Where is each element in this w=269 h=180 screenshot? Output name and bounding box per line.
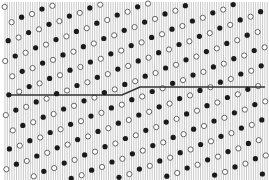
- filled-dot: [178, 150, 183, 155]
- hollow-dot: [105, 17, 110, 22]
- hollow-dot: [248, 14, 253, 19]
- hollow-dot: [24, 104, 29, 109]
- filled-dot: [62, 161, 67, 166]
- filled-dot: [225, 149, 230, 154]
- filled-dot: [60, 52, 65, 57]
- filled-dot: [171, 135, 176, 140]
- hollow-dot: [201, 123, 206, 128]
- filled-dot: [61, 106, 66, 111]
- filled-dot: [143, 128, 148, 133]
- hollow-dot: [236, 146, 241, 151]
- hollow-dot: [187, 39, 192, 44]
- hollow-dot: [214, 46, 219, 51]
- hollow-dot: [113, 141, 118, 146]
- hollow-dot: [23, 50, 28, 55]
- filled-dot: [88, 59, 93, 64]
- hollow-dot: [154, 125, 159, 130]
- filled-dot: [34, 153, 39, 158]
- filled-dot: [46, 22, 51, 27]
- filled-dot: [13, 108, 18, 113]
- hollow-dot: [222, 115, 227, 120]
- hollow-dot: [84, 26, 89, 31]
- hollow-dot: [50, 57, 55, 62]
- filled-dot: [205, 157, 210, 162]
- hollow-dot: [235, 38, 240, 43]
- hollow-dot: [51, 111, 56, 116]
- hollow-dot: [2, 4, 7, 9]
- filled-dot: [136, 112, 141, 117]
- hollow-dot: [72, 157, 77, 162]
- hollow-dot: [85, 80, 90, 85]
- hollow-dot: [106, 126, 111, 131]
- filled-dot: [245, 33, 250, 38]
- filled-dot: [123, 136, 128, 141]
- filled-dot: [150, 89, 155, 94]
- hollow-dot: [119, 48, 124, 53]
- filled-dot: [225, 95, 230, 100]
- filled-dot: [156, 50, 161, 55]
- hollow-dot: [112, 87, 117, 92]
- filled-dot: [6, 92, 11, 97]
- filled-dot: [13, 53, 18, 58]
- hollow-dot: [45, 150, 50, 155]
- hollow-dot: [263, 153, 268, 158]
- filled-dot: [238, 71, 243, 76]
- hollow-dot: [38, 135, 43, 140]
- filled-dot: [102, 144, 107, 149]
- filled-dot: [217, 26, 222, 31]
- hollow-dot: [43, 42, 48, 47]
- hollow-dot: [256, 84, 261, 89]
- filled-dot: [130, 151, 135, 156]
- filled-dot: [184, 111, 189, 116]
- filled-dot: [238, 17, 243, 22]
- hollow-dot: [215, 100, 220, 105]
- hollow-dot: [256, 138, 261, 143]
- hollow-dot: [152, 16, 157, 21]
- hollow-dot: [17, 89, 22, 94]
- hollow-dot: [64, 88, 69, 93]
- hollow-dot: [195, 162, 200, 167]
- filled-dot: [164, 120, 169, 125]
- filled-dot: [218, 80, 223, 85]
- hollow-dot: [146, 55, 151, 60]
- hollow-dot: [120, 156, 125, 161]
- filled-dot: [252, 102, 257, 107]
- hollow-dot: [168, 155, 173, 160]
- filled-dot: [211, 118, 216, 123]
- hollow-dot: [139, 40, 144, 45]
- filled-dot: [136, 58, 141, 63]
- hollow-dot: [221, 7, 226, 12]
- hollow-dot: [17, 143, 22, 148]
- hollow-dot: [229, 131, 234, 136]
- hollow-dot: [91, 41, 96, 46]
- filled-dot: [40, 61, 45, 66]
- hollow-dot: [181, 132, 186, 137]
- filled-dot: [115, 67, 120, 72]
- hollow-dot: [125, 9, 130, 14]
- hollow-dot: [126, 117, 131, 122]
- hollow-dot: [57, 19, 62, 24]
- hollow-dot: [112, 33, 117, 38]
- hollow-dot: [194, 108, 199, 113]
- hollow-dot: [79, 173, 84, 178]
- filled-dot: [95, 129, 100, 134]
- filled-dot: [116, 121, 121, 126]
- hollow-dot: [3, 58, 8, 63]
- hollow-dot: [159, 32, 164, 37]
- filled-dot: [26, 30, 31, 35]
- filled-dot: [81, 44, 86, 49]
- filled-dot: [259, 117, 264, 122]
- hollow-dot: [78, 64, 83, 69]
- filled-dot: [183, 3, 188, 8]
- hollow-dot: [65, 142, 70, 147]
- hollow-dot: [243, 161, 248, 166]
- hollow-dot: [44, 96, 49, 101]
- hollow-dot: [242, 53, 247, 58]
- filled-dot: [177, 96, 182, 101]
- filled-dot: [212, 173, 217, 178]
- filled-dot: [74, 29, 79, 34]
- hollow-dot: [133, 79, 138, 84]
- filled-dot: [81, 98, 86, 103]
- hollow-dot: [77, 10, 82, 15]
- hollow-dot: [180, 23, 185, 28]
